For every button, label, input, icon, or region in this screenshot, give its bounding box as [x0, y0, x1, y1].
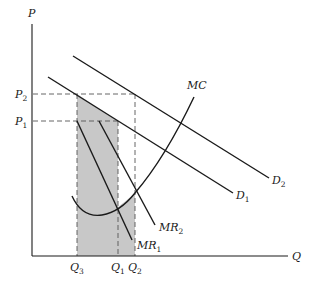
- mc-label: MC: [186, 79, 207, 92]
- q1-label: Q1: [111, 261, 125, 276]
- mr2-label: MR2: [158, 221, 184, 236]
- y-axis-label: P: [27, 7, 36, 20]
- shaded-area: [77, 94, 135, 256]
- q2-label: Q2: [128, 261, 142, 276]
- q3-label: Q3: [70, 261, 84, 276]
- mr1-label: MR1: [136, 239, 161, 254]
- x-axis-label: Q: [292, 250, 301, 263]
- demand-curve-d1: [48, 77, 233, 193]
- monopoly-diagram: P Q P2 P1 Q3 Q1 Q2 D2 D1 MC MR2 MR1: [0, 0, 312, 282]
- d2-label: D2: [271, 174, 286, 189]
- d1-label: D1: [235, 189, 250, 204]
- p2-label: P2: [14, 88, 27, 103]
- p1-label: P1: [14, 115, 27, 130]
